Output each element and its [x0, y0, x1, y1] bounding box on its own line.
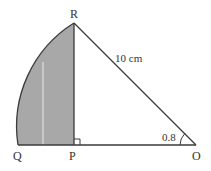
- angle-label: 0.8: [162, 131, 176, 143]
- label-P: P: [69, 149, 76, 163]
- radius-OR: [74, 23, 196, 145]
- sector-diagram: R Q P O 10 cm 0.8: [0, 0, 211, 171]
- right-angle-mark: [74, 139, 80, 145]
- angle-arc-O: [180, 134, 185, 145]
- shaded-region: [17, 23, 74, 145]
- hypotenuse-length-label: 10 cm: [115, 52, 143, 64]
- label-Q: Q: [13, 149, 22, 163]
- label-O: O: [192, 149, 201, 163]
- label-R: R: [70, 7, 78, 21]
